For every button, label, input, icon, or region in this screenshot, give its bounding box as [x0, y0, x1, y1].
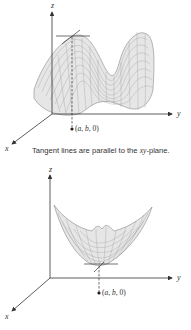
y-axis-label: y [177, 110, 181, 118]
bowl-surface [54, 205, 152, 266]
surface-max-graphic [0, 0, 191, 165]
figure-caption: Tangent lines are parallel to the xy-pla… [32, 147, 170, 155]
point-label: (a, b, 0) [102, 289, 126, 297]
x-axis-label: x [5, 313, 9, 321]
x-axis [12, 278, 50, 311]
figure-local-maximum: z y x (a, b, 0) Tangent lines are parall… [0, 0, 191, 165]
point-marker [70, 127, 73, 130]
point-label: (a, b, 0) [75, 125, 99, 133]
x-axis-label: x [5, 145, 9, 153]
surface-min-graphic [0, 165, 191, 330]
figure-local-minimum: z y x (a, b, 0) [0, 165, 191, 330]
y-axis-label: y [177, 274, 181, 282]
z-axis-label: z [49, 166, 52, 174]
x-axis [12, 114, 52, 144]
point-marker [97, 291, 100, 294]
z-axis-label: z [51, 2, 54, 10]
